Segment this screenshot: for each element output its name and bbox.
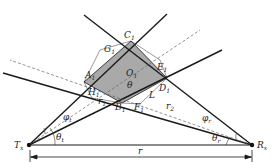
- label-theta-r: θr: [212, 133, 221, 144]
- label-G1: G1: [104, 44, 115, 55]
- label-C1: C1: [124, 30, 135, 41]
- angle-arcs: [44, 128, 236, 145]
- label-phi-r: φr: [202, 113, 212, 124]
- bistatic-geometry-diagram: C1 G1 E1 A1 D1 H1 B1 F1 O1 θ L r1 r2 φt …: [0, 0, 279, 168]
- label-A1: A1: [84, 70, 95, 81]
- label-theta-t: θt: [56, 132, 64, 143]
- label-r2: r2: [166, 101, 174, 112]
- receiver-point: [250, 143, 254, 147]
- label-E1: E1: [156, 62, 167, 73]
- label-L: L: [148, 90, 155, 100]
- label-phi-t: φt: [63, 112, 72, 123]
- label-D1: D1: [158, 83, 170, 94]
- label-Rx: Rx: [256, 140, 268, 151]
- label-r-distance: r: [138, 146, 143, 156]
- label-B1: B1: [114, 102, 125, 113]
- diagram-canvas: C1 G1 E1 A1 D1 H1 B1 F1 O1 θ L r1 r2 φt …: [0, 0, 279, 168]
- label-r1: r1: [98, 96, 106, 107]
- label-F1: F1: [133, 102, 144, 113]
- label-theta: θ: [127, 80, 133, 90]
- label-Tx: Tx: [14, 140, 24, 151]
- transmitter-point: [27, 143, 31, 147]
